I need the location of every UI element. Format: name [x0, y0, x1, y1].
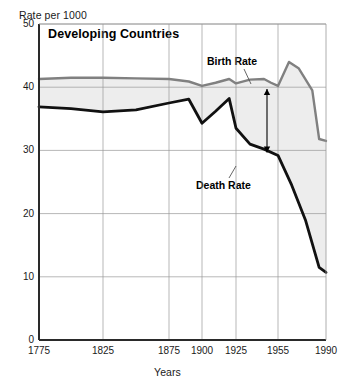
- x-tick-label: 1955: [258, 345, 298, 356]
- y-tick-label: 40: [12, 81, 34, 92]
- x-tick-label: 1990: [306, 345, 344, 356]
- x-tick-label: 1825: [83, 345, 123, 356]
- y-tick-label: 0: [12, 334, 34, 345]
- y-tick-label: 50: [12, 18, 34, 29]
- x-tick-label: 1925: [216, 345, 256, 356]
- y-tick-label: 20: [12, 208, 34, 219]
- gridlines: [39, 24, 326, 340]
- axis-frame: [39, 24, 326, 340]
- x-tick-label: 1775: [19, 345, 59, 356]
- y-tick-label: 30: [12, 144, 34, 155]
- y-tick-label: 10: [12, 271, 34, 282]
- chart-figure: Rate per 1000 Years Developing Countries…: [0, 0, 344, 385]
- plot-area: [0, 0, 344, 385]
